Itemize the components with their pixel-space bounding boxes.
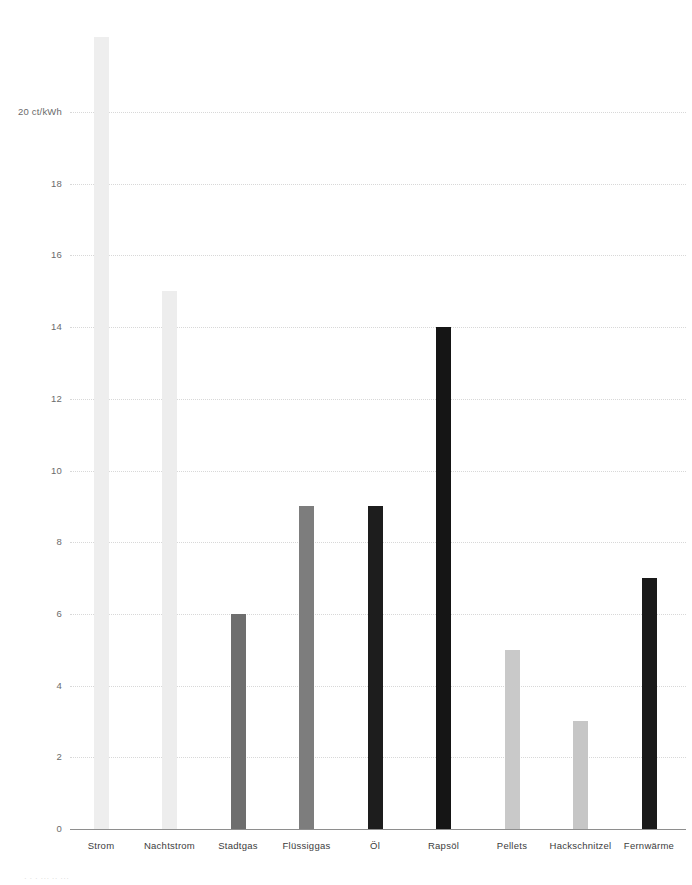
- y-tick-label-12: 12: [51, 394, 62, 404]
- x-label-stadtgas: Stadtgas: [218, 841, 258, 851]
- x-label-pellets: Pellets: [497, 841, 527, 851]
- footnote-text: · · · ··· ·· ···: [24, 874, 69, 883]
- x-label-strom: Strom: [88, 841, 115, 851]
- x-label-fl-ssiggas: Flüssiggas: [283, 841, 331, 851]
- x-axis-labels: StromNachtstromStadtgasFlüssiggasÖlRapsö…: [70, 0, 686, 885]
- y-tick-label-8: 8: [57, 537, 62, 547]
- y-tick-label-4: 4: [57, 681, 62, 691]
- bar-chart: 02468101214161820 ct/kWh StromNachtstrom…: [0, 0, 692, 885]
- x-label-hackschnitzel: Hackschnitzel: [550, 841, 612, 851]
- x-label-nachtstrom: Nachtstrom: [144, 841, 195, 851]
- x-label-fernw-rme: Fernwärme: [624, 841, 674, 851]
- y-axis: 02468101214161820 ct/kWh: [0, 0, 62, 885]
- y-tick-label-2: 2: [57, 752, 62, 762]
- y-tick-label-14: 14: [51, 322, 62, 332]
- y-tick-label-18: 18: [51, 179, 62, 189]
- x-label--l: Öl: [370, 841, 380, 851]
- y-tick-label-0: 0: [57, 824, 62, 834]
- y-tick-label-16: 16: [51, 250, 62, 260]
- x-label-raps-l: Rapsöl: [428, 841, 459, 851]
- y-tick-label-6: 6: [57, 609, 62, 619]
- y-tick-label-20: 20 ct/kWh: [18, 107, 62, 117]
- y-tick-label-10: 10: [51, 466, 62, 476]
